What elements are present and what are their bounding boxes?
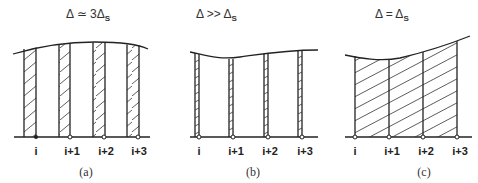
panel-c-label-i1: i+1 <box>384 145 400 157</box>
panel-b-strip-1 <box>195 53 199 137</box>
panel-b-station-marker <box>300 135 304 139</box>
panel-a-strip-3 <box>93 40 105 137</box>
panel-c-station-marker <box>387 135 391 139</box>
panel-a-label-i: i <box>34 145 37 157</box>
panel-a-station-marker <box>68 135 72 139</box>
panel-a-station-marker <box>34 135 38 139</box>
panel-b-label-i2: i+2 <box>262 145 278 157</box>
panel-a-label-i3: i+3 <box>131 145 147 157</box>
panel-b-station-marker <box>231 135 235 139</box>
panel-a-strip-4 <box>127 40 139 137</box>
panel-a-station-marker <box>136 135 140 139</box>
panel-b-label-i3: i+3 <box>297 145 313 157</box>
panel-a-label-i1: i+1 <box>64 145 80 157</box>
panel-b-strip-2 <box>229 59 233 137</box>
panel-b-station-marker <box>197 135 201 139</box>
panel-c-label-i3: i+3 <box>452 145 468 157</box>
panel-b-strip-4 <box>298 51 302 138</box>
panel-a-title: Δ ≃ 3ΔS <box>66 7 111 23</box>
panel-c-label-i2: i+2 <box>418 145 434 157</box>
panel-c: Δ = ΔS i i+1 i+2 i+3 (c) <box>345 0 472 183</box>
panel-b-title: Δ >> ΔS <box>196 7 237 23</box>
sampling-diagram: Δ ≃ 3ΔS i i+1 i+2 i+3 (a) <box>0 0 478 183</box>
panel-b-label-i1: i+1 <box>228 145 244 157</box>
panel-c-caption: (c) <box>417 165 430 179</box>
panel-b-strip-3 <box>264 54 268 138</box>
panel-c-label-i: i <box>353 145 356 157</box>
panel-a-strip-1 <box>24 40 36 137</box>
panel-b-caption: (b) <box>246 165 260 179</box>
panel-b-station-marker <box>266 135 270 139</box>
panel-a-station-marker <box>102 135 106 139</box>
panel-a-caption: (a) <box>79 165 92 179</box>
panel-c-title: Δ = ΔS <box>375 7 409 23</box>
panel-a-label-i2: i+2 <box>98 145 114 157</box>
panel-a: Δ ≃ 3ΔS i i+1 i+2 i+3 (a) <box>13 7 150 179</box>
panel-a-strip-2 <box>59 40 70 137</box>
panel-c-station-marker <box>421 135 425 139</box>
panel-c-station-marker <box>353 135 357 139</box>
panel-c-function-curve <box>345 36 470 60</box>
panel-b-label-i: i <box>197 145 200 157</box>
panel-b-function-curve <box>190 50 318 58</box>
panel-c-station-marker <box>455 135 459 139</box>
panel-b: Δ >> ΔS i i+1 i+2 i+3 (b) <box>190 7 318 179</box>
